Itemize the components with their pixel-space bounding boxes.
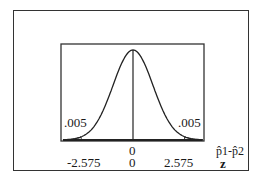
z-center-tick: 0 <box>129 156 136 169</box>
z-right-tick: 2.575 <box>164 156 193 169</box>
z-axis-label: z <box>220 157 226 170</box>
right-tail-area-label: .005 <box>178 116 201 129</box>
left-tail-area-label: .005 <box>64 116 87 129</box>
z-left-tick: -2.575 <box>67 156 101 169</box>
